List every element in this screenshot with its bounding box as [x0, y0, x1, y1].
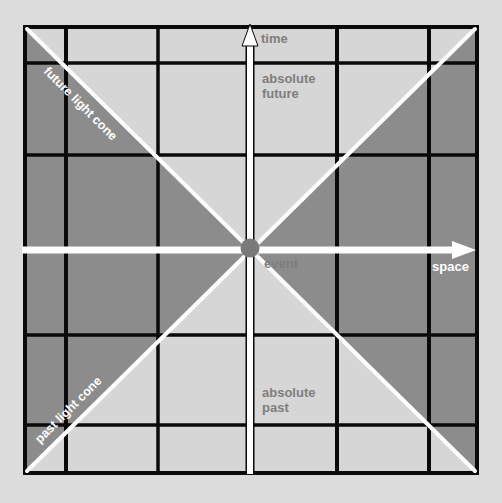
absolute-past-label-line1: absolute — [262, 385, 315, 400]
light-cone-diagram: time absolute future event space absolut… — [0, 0, 502, 503]
space-axis-label: space — [432, 259, 469, 274]
time-axis-label: time — [261, 31, 288, 46]
event-label: event — [264, 256, 299, 271]
absolute-future-label-line1: absolute — [262, 71, 315, 86]
absolute-past-label-line2: past — [262, 400, 289, 415]
event-dot — [241, 239, 260, 258]
absolute-future-label-line2: future — [262, 86, 299, 101]
